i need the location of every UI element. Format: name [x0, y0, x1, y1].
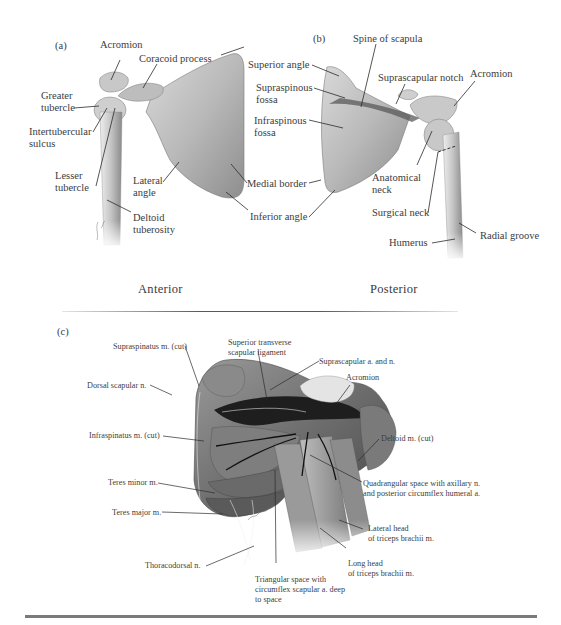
label-superior-transverse-line1: Superior transverse [228, 338, 291, 348]
label-radial-groove: Radial groove [480, 230, 539, 242]
view-title-anterior: Anterior [138, 282, 183, 297]
label-greater-tubercle-line1: Greater [41, 90, 72, 102]
label-deltoid-tuberosity-line1: Deltoid [133, 212, 165, 224]
label-long-head-line2: of triceps brachii m. [348, 569, 414, 579]
label-lesser-tubercle-line2: tubercle [55, 182, 89, 194]
label-quadrangular-space-line2: and posterior circumflex humeral a. [363, 489, 480, 499]
label-humerus: Humerus [389, 237, 428, 249]
label-triangular-space-line1: Triangular space with [255, 575, 326, 585]
label-anatomical-neck-line1: Anatomical [372, 172, 421, 184]
label-lateral-angle-line2: angle [133, 187, 156, 199]
label-triangular-space-line3: to space [255, 595, 282, 605]
label-supraspinatus-cut: Supraspinatus m. (cut) [113, 342, 187, 352]
label-dorsal-scapular-n: Dorsal scapular n. [87, 381, 146, 391]
label-suprascapular-a-and-n: Suprascapular a. and n. [319, 357, 395, 367]
label-lateral-angle-line1: Lateral [133, 175, 163, 187]
label-superior-transverse-line2: scapular ligament [228, 348, 286, 358]
anatomy-figure: (a) Acromion Coracoid process Superior a… [0, 0, 561, 625]
label-supraspinous-fossa-line1: Supraspinous [256, 82, 313, 94]
label-greater-tubercle-line2: tubercle [41, 102, 75, 114]
label-teres-minor: Teres minor m. [108, 478, 158, 488]
section-divider-top [62, 311, 458, 312]
label-acromion-posterior: Acromion [470, 68, 513, 80]
label-lateral-head-line2: of triceps brachii m. [368, 534, 434, 544]
panel-a-letter: (a) [55, 40, 67, 51]
label-infraspinous-fossa-line2: fossa [254, 127, 276, 139]
label-inferior-angle: Inferior angle [250, 211, 307, 223]
label-anatomical-neck-line2: neck [372, 184, 392, 196]
section-divider-bottom [25, 615, 537, 618]
label-infraspinatus-cut: Infraspinatus m. (cut) [89, 431, 160, 441]
label-spine-of-scapula: Spine of scapula [353, 33, 422, 45]
label-triangular-space-line2: circumflex scapular a. deep [255, 585, 345, 595]
label-intertubercular-line2: sulcus [29, 138, 55, 150]
label-surgical-neck: Surgical neck [372, 207, 429, 219]
view-title-posterior: Posterior [370, 282, 418, 297]
label-deltoid-tuberosity-line2: tuberosity [133, 224, 175, 236]
label-infraspinous-fossa-line1: Infraspinous [254, 115, 307, 127]
label-acromion-muscle-view: Acromion [346, 373, 379, 383]
label-intertubercular-line1: Intertubercular [29, 126, 91, 138]
label-suprascapular-notch: Suprascapular notch [378, 72, 463, 84]
label-lateral-head-line1: Lateral head [368, 524, 409, 534]
label-thoracodorsal-n: Thoracodorsal n. [145, 561, 200, 571]
panel-b-letter: (b) [313, 33, 325, 44]
label-medial-border: Medial border [247, 178, 307, 190]
panel-c-letter: (c) [57, 326, 69, 337]
label-coracoid-process: Coracoid process [139, 53, 212, 65]
label-deltoid-cut: Deltoid m. (cut) [381, 434, 434, 444]
label-lesser-tubercle-line1: Lesser [55, 170, 82, 182]
label-quadrangular-space-line1: Quadrangular space with axillary n. [363, 479, 480, 489]
label-teres-major: Teres major m. [112, 508, 161, 518]
label-long-head-line1: Long head [348, 559, 383, 569]
label-superior-angle: Superior angle [248, 59, 310, 71]
label-supraspinous-fossa-line2: fossa [256, 94, 278, 106]
label-acromion-anterior: Acromion [100, 39, 143, 51]
